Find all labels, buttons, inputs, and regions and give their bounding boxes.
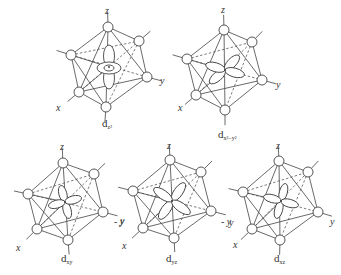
x-axis-label: x (177, 102, 183, 113)
z-axis-label: z (166, 140, 171, 151)
orbital-label-dyz: dyz (166, 252, 178, 265)
ligand-ur (247, 37, 257, 47)
orbital-label-dz2: dz² (102, 117, 112, 130)
ligand-left (23, 189, 33, 199)
y-axis-label: y (275, 79, 281, 90)
ligand-left (238, 187, 248, 197)
ligand-top (103, 22, 113, 32)
ligand-ur (134, 36, 144, 46)
neg-y-axis-label: - y (114, 216, 125, 227)
ligand-bottom (275, 235, 285, 245)
ligand-bottom (220, 105, 230, 115)
ligand-ur (196, 167, 206, 177)
x-axis-label: x (232, 239, 238, 250)
x-axis-label: x (121, 240, 127, 251)
panel-dxy: zxydxy (14, 141, 125, 265)
octahedron-edge (71, 27, 108, 55)
ligand-right (257, 75, 267, 85)
octahedron-edge (133, 160, 170, 191)
neg-y-axis-label: - y (221, 216, 232, 227)
diagram-canvas: zxydz²zxydx²−y²zxydxyzxydyzzxydxz- y- y (0, 0, 341, 275)
nucleus-dot (280, 200, 282, 202)
panel-dx2-y2: zxydx²−y² (173, 4, 281, 141)
y-axis-label: y (159, 75, 165, 86)
octahedron-hidden-edge (133, 172, 201, 191)
z-axis-label: z (104, 5, 109, 16)
octahedron-edge (243, 161, 279, 192)
octahedron-edge (252, 42, 262, 80)
nucleus-dot (64, 201, 66, 203)
ligand-right (313, 207, 323, 217)
ligand-ur (89, 169, 99, 179)
orbital-label-dxy: dxy (61, 252, 73, 265)
ligand-ll (32, 224, 42, 234)
y-axis-label: y (329, 216, 335, 227)
panel-dyz: zxydyz (118, 140, 234, 265)
ligand-bottom (169, 233, 179, 243)
d-orbitals-octahedral-diagram: zxydz²zxydx²−y²zxydxyzxydyzzxydxz- y- y (0, 0, 341, 275)
ligand-left (128, 186, 138, 196)
x-axis-label: x (15, 242, 21, 253)
nucleus-dot (108, 66, 110, 68)
ligand-left (182, 54, 192, 64)
orbital-lobe (224, 66, 246, 80)
ligand-bottom (63, 235, 73, 245)
ligand-bottom (101, 102, 111, 112)
z-axis-label: z (275, 140, 280, 151)
ligand-right (98, 207, 108, 217)
panel-dz2: zxydz² (55, 5, 165, 130)
nucleus-dot (224, 69, 226, 71)
ligand-ur (303, 167, 313, 177)
ligand-top (274, 156, 284, 166)
octahedron-hidden-edge (187, 42, 252, 59)
ligand-top (219, 25, 229, 35)
panel-dxz: zxydxz (229, 140, 335, 265)
ligand-left (66, 50, 76, 60)
ligand-ll (74, 87, 84, 97)
nucleus-dot (171, 200, 173, 202)
ligand-ll (191, 90, 201, 100)
orbital-label-dx2-y2: dx²−y² (218, 128, 237, 141)
octahedron-edge (187, 30, 224, 59)
ligand-top (165, 155, 175, 165)
octahedron-edge (196, 80, 262, 95)
octahedron-edge (280, 212, 318, 240)
octahedron-edge (252, 212, 318, 229)
orbital-lobe (205, 60, 227, 74)
x-axis-label: x (55, 102, 61, 113)
octahedron-hidden-edge (243, 172, 308, 192)
ligand-right (142, 72, 152, 82)
ligand-top (58, 158, 68, 168)
ligand-ll (138, 223, 148, 233)
octahedron-edge (174, 211, 211, 238)
z-axis-label: z (59, 141, 64, 152)
ligand-ll (247, 224, 257, 234)
z-axis-label: z (220, 4, 225, 15)
ligand-right (206, 206, 216, 216)
octahedron-edge (28, 163, 63, 194)
